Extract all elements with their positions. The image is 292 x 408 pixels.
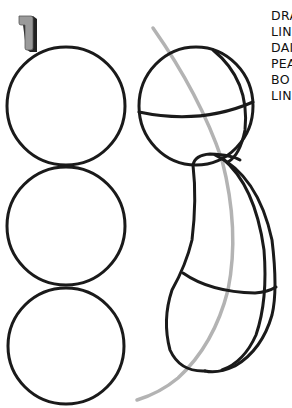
guide-curve bbox=[137, 28, 233, 400]
instruction-line: DRA bbox=[271, 8, 292, 24]
instruction-line: BO bbox=[271, 72, 292, 88]
head-sphere bbox=[139, 47, 253, 165]
body-shape bbox=[166, 154, 276, 372]
instruction-line: PEA bbox=[271, 56, 292, 72]
instructions-text: DRA LIN DAI PEA BO LIN bbox=[271, 8, 292, 104]
drawing-canvas bbox=[0, 0, 292, 408]
instruction-line: LIN bbox=[271, 88, 292, 104]
instruction-line: LIN bbox=[271, 24, 292, 40]
circle-bottom bbox=[8, 288, 124, 404]
circle-stack bbox=[7, 47, 125, 404]
instruction-line: DAI bbox=[271, 40, 292, 56]
circle-middle bbox=[7, 167, 125, 285]
circle-top bbox=[7, 47, 125, 165]
step-number-icon bbox=[19, 16, 37, 52]
